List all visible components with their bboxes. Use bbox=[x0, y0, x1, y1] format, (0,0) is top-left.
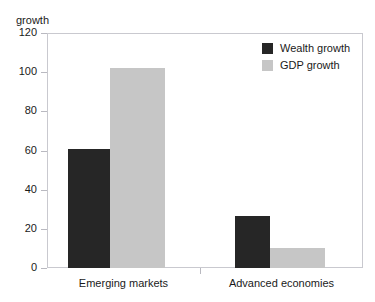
y-axis-tick-mark bbox=[41, 229, 47, 230]
legend-label: GDP growth bbox=[280, 59, 340, 72]
category-label: Emerging markets bbox=[47, 276, 200, 290]
bar bbox=[68, 149, 110, 268]
bar bbox=[110, 68, 165, 268]
y-axis-tick-label: 0 bbox=[31, 261, 37, 274]
y-axis-tick-mark bbox=[41, 72, 47, 73]
legend-color-swatch bbox=[262, 43, 273, 54]
y-axis-tick-label: 120 bbox=[19, 26, 37, 39]
legend-item: GDP growth bbox=[262, 58, 350, 73]
y-axis-tick-mark bbox=[41, 268, 47, 269]
y-axis-tick-mark bbox=[41, 33, 47, 34]
y-axis-tick-mark bbox=[41, 190, 47, 191]
legend-item: Wealth growth bbox=[262, 41, 350, 56]
bar-chart-figure: growth 020406080100120 Emerging marketsA… bbox=[0, 0, 375, 302]
y-axis-tick-mark bbox=[41, 111, 47, 112]
y-axis-tick-label: 60 bbox=[25, 144, 37, 157]
legend-color-swatch bbox=[262, 60, 273, 71]
y-axis-tick-label: 40 bbox=[25, 183, 37, 196]
y-axis-tick-label: 100 bbox=[19, 65, 37, 78]
bar bbox=[235, 216, 270, 268]
legend-label: Wealth growth bbox=[280, 42, 350, 55]
y-axis-tick-label: 20 bbox=[25, 222, 37, 235]
y-axis-tick-label: 80 bbox=[25, 104, 37, 117]
y-axis-tick-mark bbox=[41, 151, 47, 152]
category-label: Advanced economies bbox=[200, 276, 363, 290]
category-axis-divider-tick bbox=[200, 268, 201, 274]
chart-legend: Wealth growthGDP growth bbox=[262, 41, 350, 75]
bar bbox=[270, 248, 325, 268]
